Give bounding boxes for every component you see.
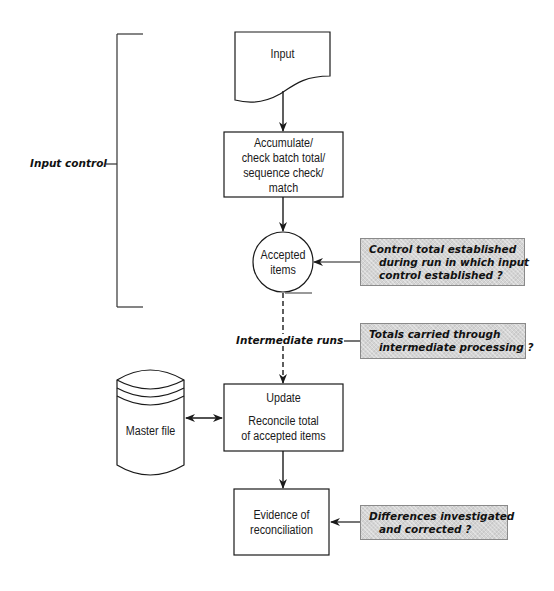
note-line: and corrected ? xyxy=(379,523,471,536)
note-line: during run in which input xyxy=(379,256,529,269)
accumulate-line: check batch total/ xyxy=(232,151,334,166)
accepted-items-line: items xyxy=(257,263,309,278)
accumulate-line: match xyxy=(232,181,334,196)
input-control-flowchart: Input control Input Accumulate/ check ba… xyxy=(0,0,554,591)
update-box: Update Reconcile total of accepted items xyxy=(224,391,343,444)
note-line: Totals carried through xyxy=(369,328,501,341)
update-line: of accepted items xyxy=(232,429,334,444)
accumulate-box: Accumulate/ check batch total/ sequence … xyxy=(224,136,343,196)
note-line: intermediate processing ? xyxy=(379,341,534,354)
master-file-label: Master file xyxy=(122,424,180,439)
note-line: Control total established xyxy=(369,243,516,256)
update-title: Update xyxy=(232,391,334,406)
master-file-cylinder xyxy=(117,370,184,475)
note-control-total: Control total established during run in … xyxy=(360,238,525,286)
accepted-items-node: Accepted items xyxy=(253,248,313,278)
note-differences: Differences investigated and corrected ? xyxy=(360,505,508,540)
evidence-line: Evidence of xyxy=(241,508,323,523)
accepted-items-line: Accepted xyxy=(257,248,309,263)
evidence-line: reconciliation xyxy=(241,523,323,538)
accumulate-line: Accumulate/ xyxy=(232,136,334,151)
accumulate-line: sequence check/ xyxy=(232,166,334,181)
input-control-label: Input control xyxy=(30,157,107,169)
flowchart-lines xyxy=(0,0,554,591)
input-control-bracket xyxy=(106,34,143,307)
input-label: Input xyxy=(242,47,324,62)
note-line: control established ? xyxy=(379,269,503,282)
evidence-box: Evidence of reconciliation xyxy=(234,508,329,538)
intermediate-runs-label: Intermediate runs xyxy=(235,334,344,346)
note-line: Differences investigated xyxy=(369,510,514,523)
update-line: Reconcile total xyxy=(232,414,334,429)
note-totals-carried: Totals carried through intermediate proc… xyxy=(360,323,526,359)
